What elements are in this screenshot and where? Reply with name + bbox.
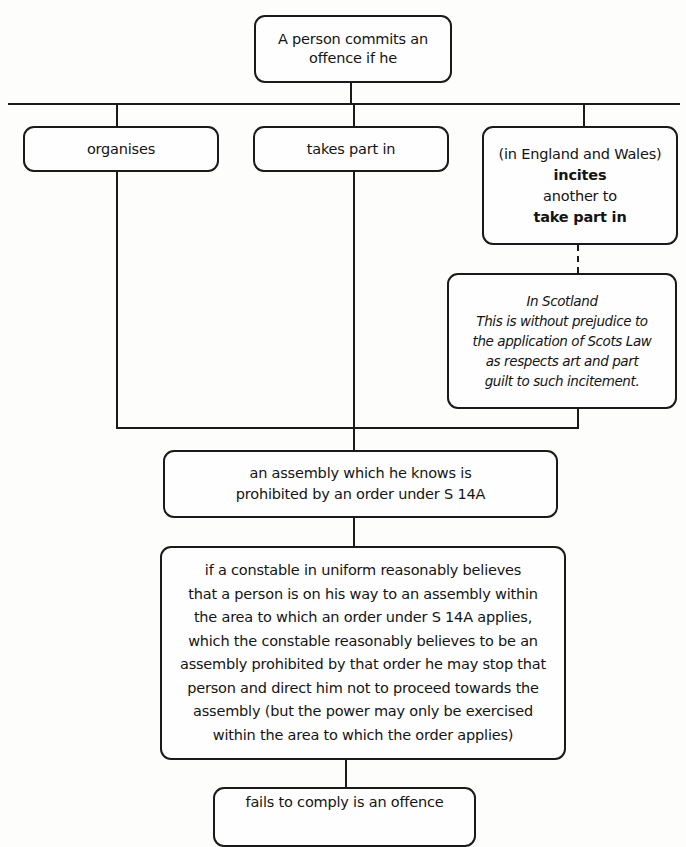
- assembly-box: an assembly which he knows is prohibited…: [163, 450, 558, 518]
- scotland-line-2: the application of Scots Law: [472, 331, 651, 351]
- constable-line-5: assembly prohibited by that order he may…: [180, 653, 546, 677]
- incites-box: (in England and Wales) incites another t…: [482, 126, 678, 245]
- assembly-line-1: an assembly which he knows is: [250, 463, 472, 484]
- stem-takes-part: [353, 104, 355, 126]
- constable-line-7: assembly (but the power may only be exer…: [193, 700, 533, 724]
- constable-line-1: if a constable in uniform reasonably bel…: [205, 559, 521, 583]
- constable-line-4: which the constable reasonably believes …: [188, 630, 538, 654]
- organises-box: organises: [23, 126, 219, 172]
- scotland-heading: In Scotland: [526, 291, 597, 311]
- constable-box: if a constable in uniform reasonably bel…: [160, 546, 566, 760]
- scotland-note-box: In Scotland This is without prejudice to…: [447, 273, 677, 409]
- root-box: A person commits an offence if he: [254, 15, 452, 83]
- scotland-down-line: [577, 408, 579, 429]
- constable-line-6: person and direct him not to proceed tow…: [187, 677, 539, 701]
- incites-scotland-dashed-link: [577, 245, 579, 273]
- constable-line-2: that a person is on his way to an assemb…: [188, 583, 538, 607]
- organises-label: organises: [87, 140, 155, 159]
- outcome-box: fails to comply is an offence: [213, 787, 476, 847]
- constable-line-8: within the area to which the order appli…: [213, 724, 514, 748]
- takes-part-down-line: [353, 172, 355, 450]
- scotland-line-1: This is without prejudice to: [476, 311, 647, 331]
- takes-part-in-label: takes part in: [307, 140, 396, 159]
- scotland-line-3: as respects art and part: [486, 351, 639, 371]
- incites-object: another to: [543, 186, 617, 207]
- root-stem: [350, 83, 352, 105]
- assembly-constable-line: [353, 518, 355, 546]
- incites-action: take part in: [533, 207, 626, 228]
- incites-verb: incites: [554, 165, 607, 186]
- root-line-1: A person commits an: [278, 30, 428, 49]
- root-line-2: offence if he: [309, 49, 397, 68]
- organises-down-line: [116, 171, 118, 429]
- incites-qualifier: (in England and Wales): [499, 144, 662, 165]
- stem-organises: [116, 104, 118, 126]
- branch-bar: [8, 103, 680, 105]
- stem-incites: [583, 104, 585, 126]
- outcome-label: fails to comply is an offence: [246, 793, 444, 812]
- merge-bar: [116, 427, 579, 429]
- assembly-line-2: prohibited by an order under S 14A: [236, 484, 485, 505]
- constable-outcome-line: [345, 760, 347, 787]
- scotland-line-4: guilt to such incitement.: [485, 371, 640, 391]
- constable-line-3: the area to which an order under S 14A a…: [194, 606, 532, 630]
- takes-part-in-box: takes part in: [253, 126, 449, 172]
